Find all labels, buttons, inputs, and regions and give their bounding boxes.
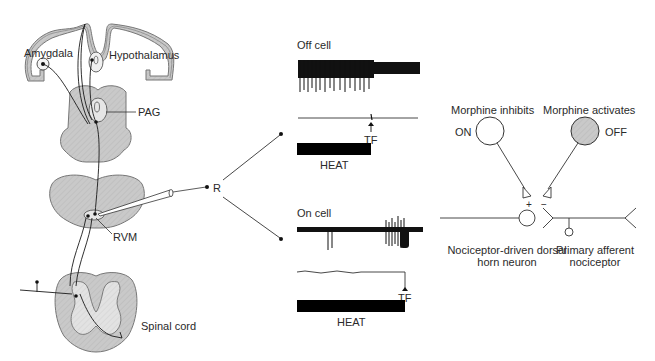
excitatory-sign: + bbox=[526, 199, 532, 211]
off-neuron-label: OFF bbox=[605, 126, 627, 138]
midbrain-shape bbox=[61, 86, 132, 162]
on-neuron bbox=[476, 117, 504, 145]
spinal-cord-label: Spinal cord bbox=[141, 320, 196, 332]
pag-label: PAG bbox=[138, 106, 160, 118]
recording-label: R bbox=[213, 182, 221, 194]
recording-branches bbox=[223, 135, 280, 238]
primary-afferent-label: Primary afferent nociceptor bbox=[545, 244, 645, 268]
on-cell-title: On cell bbox=[297, 207, 331, 219]
primary-afferent-label-line2: nociceptor bbox=[545, 256, 645, 268]
on-cell-heat-label: HEAT bbox=[337, 316, 366, 328]
off-cell-trace bbox=[298, 60, 420, 132]
on-neuron-label: ON bbox=[455, 126, 472, 138]
on-cell-heat-bar bbox=[297, 300, 405, 312]
dorsal-horn-neuron bbox=[519, 210, 535, 226]
off-cell-title: Off cell bbox=[297, 39, 331, 51]
off-cell-heat-bar bbox=[297, 143, 371, 155]
amygdala-label: Amygdala bbox=[24, 47, 73, 59]
hypothalamus-nucleus bbox=[89, 52, 103, 72]
on-cell-trace bbox=[297, 216, 423, 291]
off-neuron bbox=[571, 117, 599, 145]
morphine-inhibits-caption: Morphine inhibits bbox=[451, 104, 534, 116]
inhibitory-sign: − bbox=[541, 199, 547, 211]
pag-region bbox=[89, 98, 107, 122]
hypothalamus-label: Hypothalamus bbox=[109, 49, 179, 61]
off-cell-heat-label: HEAT bbox=[320, 159, 349, 171]
rvm-label: RVM bbox=[113, 231, 137, 243]
morphine-activates-caption: Morphine activates bbox=[543, 104, 635, 116]
primary-afferent-label-line1: Primary afferent bbox=[545, 244, 645, 256]
primary-afferent-cell bbox=[565, 228, 573, 236]
